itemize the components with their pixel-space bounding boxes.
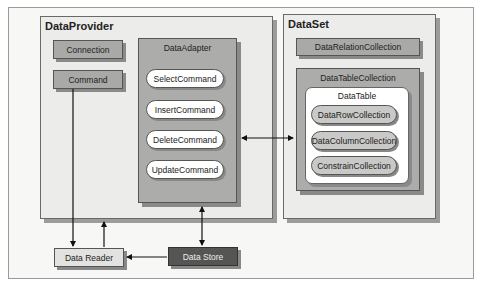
connector-arrows <box>0 0 482 289</box>
